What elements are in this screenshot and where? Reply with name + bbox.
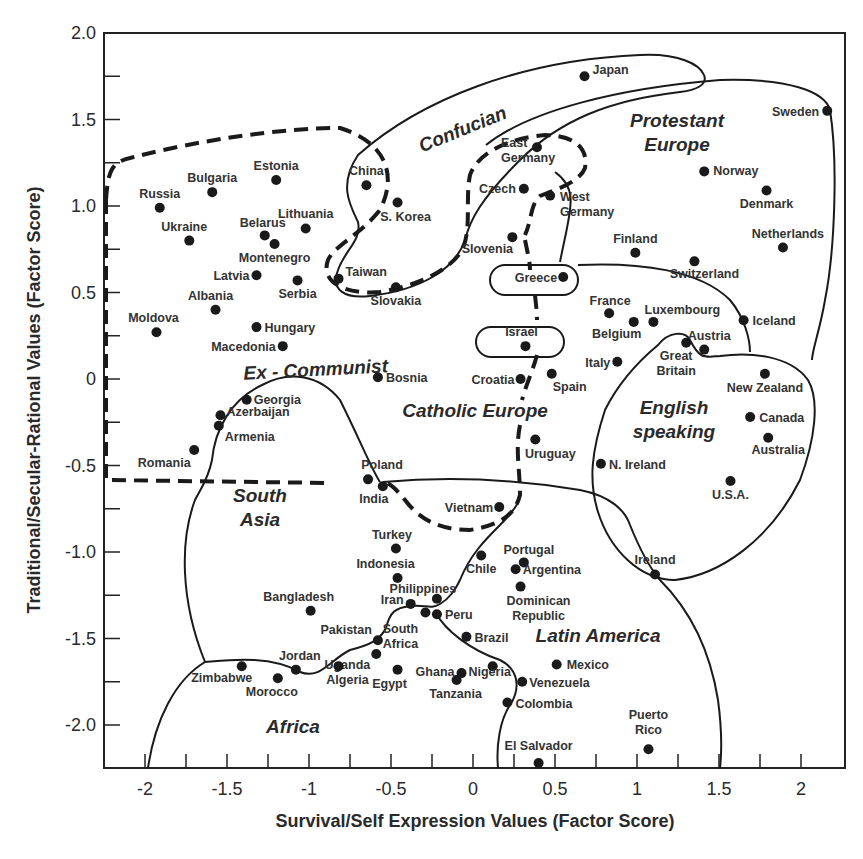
point-marker (378, 481, 388, 491)
data-point: Morocco (246, 673, 298, 699)
point-label: Germany (501, 151, 555, 165)
data-point: Uruguay (525, 435, 576, 461)
point-marker (184, 236, 194, 246)
point-label: East (501, 136, 528, 150)
point-label: Indonesia (356, 557, 415, 571)
data-point: Armenia (214, 421, 276, 444)
data-point: Azerbaijan (215, 405, 289, 420)
point-marker (545, 191, 555, 201)
point-marker (273, 673, 283, 683)
data-point: Turkey (372, 528, 412, 554)
point-label: Argentina (523, 563, 582, 577)
data-point: Canada (745, 411, 805, 425)
point-marker (762, 185, 772, 195)
point-label: Jordan (279, 649, 321, 663)
point-marker (516, 374, 526, 384)
data-point: Mexico (552, 658, 610, 672)
data-point: U.S.A. (712, 476, 749, 502)
region-label: Englishspeaking (633, 397, 716, 442)
point-label: Britain (656, 364, 696, 378)
point-label: Republic (512, 609, 565, 623)
point-label: Nigeria (468, 665, 511, 679)
data-point: Taiwan (334, 265, 387, 284)
data-point: Finland (613, 232, 657, 258)
data-point: Montenegro (239, 239, 311, 265)
data-point: Serbia (278, 275, 317, 301)
data-point: Switzerland (670, 256, 739, 281)
data-point: Egypt (372, 665, 408, 691)
data-point: Jordan (279, 649, 321, 675)
point-marker (361, 180, 371, 190)
point-marker (291, 665, 301, 675)
region-label: Latin America (536, 625, 661, 646)
point-label: Chile (466, 562, 497, 576)
data-point: Ukraine (161, 220, 207, 246)
point-label: Hungary (265, 321, 316, 335)
point-marker (252, 322, 262, 332)
y-tick-label: 0 (86, 369, 96, 389)
region-label-text: English (640, 397, 709, 418)
point-marker (699, 166, 709, 176)
cultural-map-chart: -2-1.5-1-0.500.511.52 2.01.51.00.50-0.5-… (0, 0, 863, 859)
data-point: WestGermany (545, 190, 614, 219)
data-point: Hungary (252, 321, 316, 335)
data-point: New Zealand (727, 369, 803, 395)
point-marker (391, 282, 401, 292)
point-label: Slovenia (462, 242, 514, 256)
point-label: Ghana (416, 665, 456, 679)
point-label: S. Korea (380, 210, 432, 224)
data-point: Estonia (254, 159, 300, 185)
point-label: Estonia (254, 159, 300, 173)
data-point: Netherlands (752, 227, 824, 253)
point-marker (334, 661, 344, 671)
data-point: Peru (432, 608, 473, 622)
point-marker (648, 317, 658, 327)
point-label: Africa (383, 637, 419, 651)
data-point: Italy (585, 356, 622, 370)
y-tick-label: 2.0 (71, 23, 96, 43)
point-label: Netherlands (752, 227, 824, 241)
data-point: PuertoRico (629, 708, 669, 754)
data-point: India (359, 481, 389, 506)
point-label: U.S.A. (712, 488, 749, 502)
point-marker (476, 550, 486, 560)
point-label: Colombia (515, 697, 573, 711)
region-label-text: Latin America (536, 625, 661, 646)
point-marker (534, 758, 544, 768)
x-axis-title: Survival/Self Expression Values (Factor … (275, 811, 674, 831)
point-marker (214, 421, 224, 431)
data-point: Pakistan (320, 623, 382, 645)
point-label: Algeria (326, 673, 369, 687)
point-label: Germany (560, 205, 614, 219)
point-label: Egypt (372, 677, 408, 691)
x-tick-label: 2 (796, 779, 806, 799)
point-marker (558, 272, 568, 282)
point-label: Spain (553, 380, 587, 394)
point-marker (612, 357, 622, 367)
data-point: Austria (688, 329, 732, 355)
point-label: South (383, 622, 418, 636)
point-label: China (349, 164, 385, 178)
point-marker (643, 744, 653, 754)
data-point: Macedonia (211, 340, 288, 354)
point-label: Denmark (740, 197, 794, 211)
point-label: Poland (361, 458, 403, 472)
data-point: Sweden (772, 105, 832, 119)
point-marker (393, 198, 403, 208)
x-tick-label: -2 (137, 779, 153, 799)
point-marker (211, 305, 221, 315)
y-tick-label: -1.5 (65, 629, 96, 649)
point-label: Macedonia (211, 340, 277, 354)
data-point: El Salvador (505, 739, 573, 768)
point-label: Russia (139, 187, 181, 201)
data-point: Indonesia (356, 557, 415, 583)
point-marker (699, 345, 709, 355)
point-label: Uruguay (525, 447, 576, 461)
data-point: Bangladesh (263, 590, 334, 616)
point-label: Turkey (372, 528, 412, 542)
region-label-text: Ex - Communist (243, 355, 389, 384)
data-point: Norway (699, 164, 758, 178)
data-point: Brazil (461, 631, 508, 645)
point-marker (293, 275, 303, 285)
point-label: El Salvador (505, 739, 573, 753)
